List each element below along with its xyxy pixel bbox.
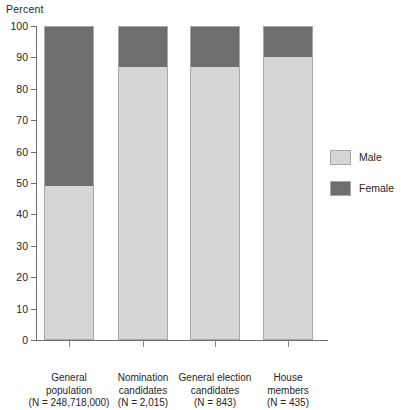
legend-item-male[interactable]: Male (330, 149, 394, 165)
bar-segment-female (118, 26, 168, 67)
legend-label-male: Male (359, 151, 382, 163)
bar-segment-male (118, 67, 168, 340)
x-axis-label-line: members (240, 385, 336, 398)
y-tick-mark (31, 152, 36, 153)
x-tick-mark (215, 341, 216, 347)
x-axis-label: Housemembers(N = 435) (240, 372, 336, 410)
x-tick-mark (288, 341, 289, 347)
bar-3[interactable] (190, 26, 240, 340)
y-tick-label: 50 (16, 177, 28, 189)
y-tick-mark (31, 26, 36, 27)
bar-4[interactable] (263, 26, 313, 340)
bar-segment-male (263, 57, 313, 340)
y-tick-mark (31, 183, 36, 184)
plot-area: 0102030405060708090100 Generalpopulation… (36, 26, 320, 340)
bar-segment-male (190, 67, 240, 340)
y-tick-label: 100 (10, 20, 28, 32)
bar-segment-male (44, 186, 94, 340)
legend-item-female[interactable]: Female (330, 180, 394, 196)
x-tick-mark (69, 341, 70, 347)
legend: Male Female (330, 149, 394, 211)
x-axis-line (36, 340, 328, 341)
legend-swatch-female-icon (330, 181, 351, 196)
y-tick-label: 0 (22, 334, 28, 346)
y-tick-label: 60 (16, 146, 28, 158)
bar-segment-female (190, 26, 240, 67)
y-tick-mark (31, 277, 36, 278)
y-tick-label: 40 (16, 208, 28, 220)
legend-swatch-male-icon (330, 150, 351, 165)
y-tick-mark (31, 309, 36, 310)
y-tick-label: 70 (16, 114, 28, 126)
y-tick-label: 20 (16, 271, 28, 283)
y-axis-title: Percent (6, 3, 44, 15)
bar-1[interactable] (44, 26, 94, 340)
y-tick-mark (31, 246, 36, 247)
y-tick-label: 30 (16, 240, 28, 252)
x-tick-mark (143, 341, 144, 347)
y-tick-mark (31, 120, 36, 121)
y-tick-mark (31, 340, 36, 341)
y-tick-label: 10 (16, 303, 28, 315)
y-tick-label: 80 (16, 83, 28, 95)
legend-label-female: Female (359, 182, 394, 194)
y-axis-line (36, 26, 37, 341)
y-tick-mark (31, 214, 36, 215)
y-tick-label: 90 (16, 51, 28, 63)
bar-segment-female (263, 26, 313, 57)
y-tick-mark (31, 57, 36, 58)
y-tick-mark (31, 89, 36, 90)
x-axis-label-line: House (240, 372, 336, 385)
bar-2[interactable] (118, 26, 168, 340)
bar-segment-female (44, 26, 94, 186)
x-axis-label-line: (N = 435) (240, 397, 336, 410)
